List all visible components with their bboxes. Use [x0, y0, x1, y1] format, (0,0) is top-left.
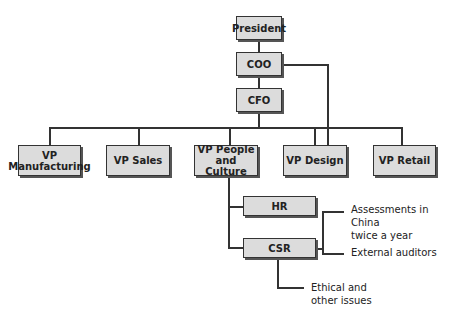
node-vp-sales: VP Sales	[106, 145, 170, 176]
connector	[258, 76, 260, 88]
connector	[229, 127, 231, 145]
note-line: Ethical and	[311, 281, 372, 294]
node-hr: HR	[243, 196, 316, 216]
node-label: HR	[271, 201, 287, 212]
connector	[258, 112, 260, 127]
note-line: twice a year	[351, 229, 460, 242]
connector	[138, 127, 140, 145]
coo-design-connector	[281, 64, 328, 66]
node-label: COO	[247, 59, 271, 70]
node-label: CFO	[248, 95, 271, 106]
node-vp-manufacturing: VP Manufacturing	[18, 145, 81, 176]
connector	[277, 258, 279, 288]
connector	[314, 127, 316, 145]
connector	[228, 247, 243, 249]
connector	[401, 127, 403, 145]
connector	[228, 206, 243, 208]
connector	[258, 40, 260, 52]
node-president: President	[236, 16, 282, 40]
connector	[228, 176, 230, 248]
vp-bar	[49, 127, 402, 129]
note-external-auditors: External auditors	[351, 246, 437, 259]
note-ethical: Ethical and other issues	[311, 281, 372, 307]
note-assessments: Assessments in China twice a year	[351, 203, 460, 242]
node-coo: COO	[236, 52, 282, 76]
csr-bracket	[322, 211, 324, 254]
node-vp-people-culture: VP People and Culture	[194, 145, 258, 176]
coo-design-connector	[327, 64, 329, 145]
node-label: CSR	[268, 243, 290, 254]
csr-bracket	[322, 253, 344, 255]
node-label: VP Design	[286, 155, 343, 166]
node-label: VP Sales	[114, 155, 163, 166]
connector	[49, 127, 51, 145]
note-line: Assessments in China	[351, 203, 460, 229]
node-label: VP Retail	[379, 155, 430, 166]
node-label: and Culture	[195, 155, 257, 177]
node-cfo: CFO	[236, 88, 282, 112]
node-label: Manufacturing	[8, 161, 91, 172]
note-line: other issues	[311, 294, 372, 307]
node-label: President	[232, 23, 286, 34]
node-vp-design: VP Design	[283, 145, 347, 176]
connector	[277, 287, 304, 289]
node-label: VP	[42, 150, 57, 161]
node-csr: CSR	[243, 238, 316, 258]
node-vp-retail: VP Retail	[373, 145, 436, 176]
note-line: External auditors	[351, 246, 437, 259]
node-label: VP People	[198, 144, 255, 155]
csr-bracket	[322, 211, 344, 213]
